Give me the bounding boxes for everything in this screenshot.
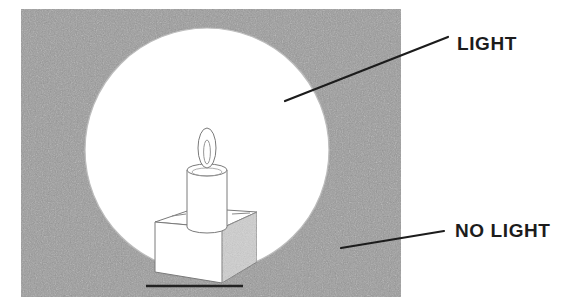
label-light: LIGHT (457, 33, 517, 54)
label-no-light: NO LIGHT (455, 220, 551, 241)
candle (187, 164, 227, 233)
diagram-canvas: LIGHT NO LIGHT (0, 0, 566, 307)
figure-container: LIGHT NO LIGHT (0, 0, 566, 307)
flame-icon (198, 128, 216, 168)
